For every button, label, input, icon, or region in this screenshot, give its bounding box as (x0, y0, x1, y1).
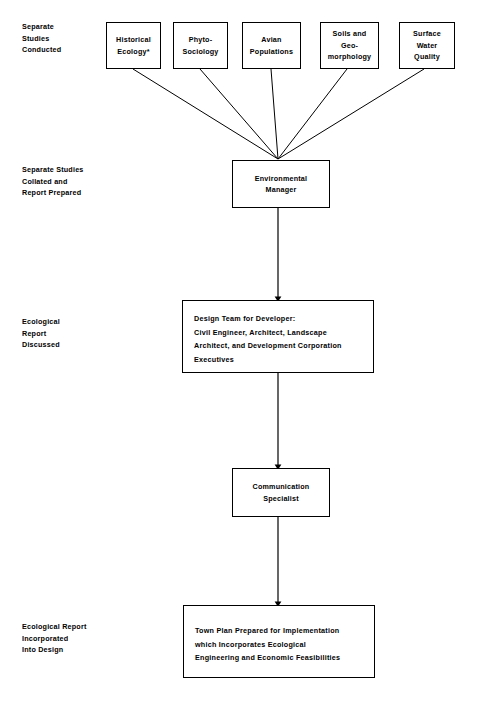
node-historical-ecology[interactable]: Historical Ecology* (106, 22, 161, 69)
node-town-plan[interactable]: Town Plan Prepared for Implementation wh… (183, 605, 375, 678)
node-avian-populations-label: Avian Populations (248, 34, 295, 57)
node-soils-geomorphology[interactable]: Soils and Geo- morphology (320, 22, 379, 69)
node-avian-populations[interactable]: Avian Populations (242, 22, 301, 69)
node-town-plan-label: Town Plan Prepared for Implementation wh… (195, 624, 340, 665)
node-phyto-sociology[interactable]: Phyto- Sociology (173, 22, 228, 69)
node-phyto-sociology-label: Phyto- Sociology (180, 34, 220, 57)
node-environmental-manager[interactable]: Environmental Manager (232, 160, 330, 208)
flowchart-canvas: Separate Studies Conducted Separate Stud… (0, 0, 477, 713)
node-design-team[interactable]: Design Team for Developer: Civil Enginee… (182, 300, 374, 373)
node-soils-geomorphology-label: Soils and Geo- morphology (326, 28, 374, 63)
connector-soils-geomorphology (278, 69, 347, 159)
connector-avian-populations (271, 69, 278, 159)
connector-historical-ecology (133, 69, 278, 159)
connector-phyto-sociology (200, 69, 278, 159)
node-environmental-manager-label: Environmental Manager (253, 173, 310, 196)
node-design-team-label: Design Team for Developer: Civil Enginee… (194, 312, 342, 366)
node-historical-ecology-label: Historical Ecology* (114, 34, 153, 57)
stage-label-studies-collated: Separate Studies Collated and Report Pre… (22, 164, 84, 199)
node-communication-specialist-label: Communication Specialist (251, 481, 312, 504)
stage-label-studies-conducted: Separate Studies Conducted (22, 21, 61, 56)
node-surface-water-quality-label: Surface Water Quality (411, 28, 443, 63)
node-communication-specialist[interactable]: Communication Specialist (232, 468, 330, 517)
stage-label-report-incorporated: Ecological Report Incorporated Into Desi… (22, 621, 87, 656)
stage-label-report-discussed: Ecological Report Discussed (22, 316, 60, 351)
node-surface-water-quality[interactable]: Surface Water Quality (399, 22, 455, 69)
connector-surface-water-quality (278, 69, 424, 159)
